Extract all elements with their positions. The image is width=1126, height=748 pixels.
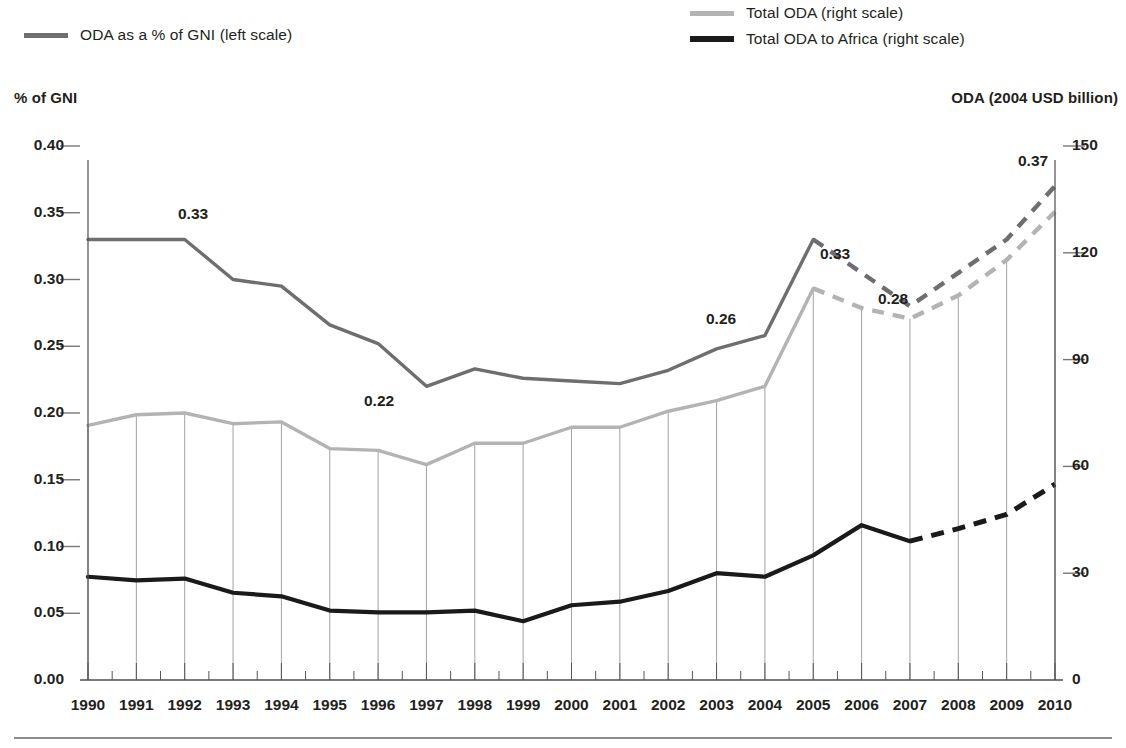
left-axis-tick-0.00: 0.00	[8, 670, 64, 688]
legend-label-total-oda-africa: Total ODA to Africa (right scale)	[746, 30, 965, 48]
right-axis-title: ODA (2004 USD billion)	[951, 89, 1118, 106]
right-axis-tick-150: 150	[1072, 136, 1120, 154]
right-axis-tick-60: 60	[1072, 456, 1120, 474]
data-label-2: 0.26	[706, 310, 736, 328]
data-label-4: 0.28	[878, 290, 908, 308]
chart-svg	[0, 108, 1126, 688]
left-axis-tick-0.35: 0.35	[8, 203, 64, 221]
legend-swatch-total-oda-africa	[690, 36, 734, 42]
x-axis-tick-2010: 2010	[1025, 696, 1085, 714]
left-axis-tick-0.15: 0.15	[8, 470, 64, 488]
legend-item-total-oda: Total ODA (right scale)	[690, 4, 903, 22]
left-axis-tick-0.20: 0.20	[8, 403, 64, 421]
left-axis-tick-0.30: 0.30	[8, 270, 64, 288]
legend-item-total-oda-africa: Total ODA to Africa (right scale)	[690, 30, 965, 48]
chart-legend: ODA as a % of GNI (left scale) Total ODA…	[0, 0, 1126, 56]
left-axis-tick-0.25: 0.25	[8, 336, 64, 354]
chart-axes	[60, 146, 1085, 680]
left-axis-tick-0.05: 0.05	[8, 603, 64, 621]
left-axis-title: % of GNI	[14, 89, 77, 106]
footer-rule	[14, 737, 1112, 739]
right-axis-tick-30: 30	[1072, 563, 1120, 581]
right-axis-tick-90: 90	[1072, 350, 1120, 368]
data-label-1: 0.22	[364, 392, 394, 410]
left-axis-tick-0.10: 0.10	[8, 537, 64, 555]
legend-swatch-oda-gni	[24, 33, 68, 38]
legend-swatch-total-oda	[690, 11, 734, 16]
data-label-0: 0.33	[178, 205, 208, 223]
legend-label-oda-gni: ODA as a % of GNI (left scale)	[80, 26, 292, 44]
chart-plot-area	[0, 108, 1126, 688]
legend-label-total-oda: Total ODA (right scale)	[746, 4, 903, 22]
right-axis-tick-120: 120	[1072, 243, 1120, 261]
right-axis-tick-0: 0	[1072, 670, 1120, 688]
legend-item-oda-gni: ODA as a % of GNI (left scale)	[24, 26, 292, 44]
left-axis-tick-0.40: 0.40	[8, 136, 64, 154]
data-label-5: 0.37	[1018, 152, 1048, 170]
data-label-3: 0.33	[820, 245, 850, 263]
vertical-connector-gridlines	[88, 212, 1055, 680]
